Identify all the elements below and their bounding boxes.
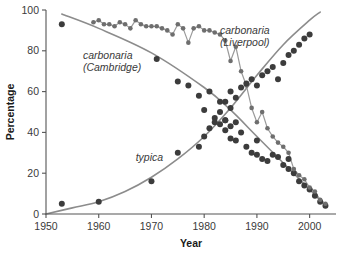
- data-point: [107, 22, 112, 27]
- data-point: [249, 106, 254, 111]
- data-point: [222, 99, 228, 105]
- data-point: [259, 156, 265, 162]
- data-point: [254, 138, 260, 144]
- data-point: [296, 42, 302, 48]
- data-point: [280, 162, 286, 168]
- data-point: [301, 36, 307, 42]
- data-point: [148, 178, 154, 184]
- data-point: [197, 24, 202, 29]
- data-point: [254, 152, 260, 158]
- data-point: [181, 26, 186, 31]
- data-point: [91, 20, 96, 25]
- peppered-moth-scatter-chart: 020406080100195019601970198019902000Year…: [0, 0, 343, 254]
- data-point: [301, 182, 307, 188]
- data-point: [254, 82, 260, 88]
- x-axis-title: Year: [180, 237, 202, 249]
- data-point: [112, 24, 117, 29]
- y-tick-label: 0: [33, 208, 39, 220]
- data-point: [202, 28, 207, 33]
- data-point: [286, 166, 292, 172]
- data-point: [270, 64, 276, 70]
- data-point: [228, 136, 234, 142]
- data-point: [270, 134, 275, 139]
- data-point: [102, 22, 107, 27]
- data-point: [238, 129, 244, 135]
- data-point: [260, 110, 265, 115]
- data-point: [154, 24, 159, 29]
- data-point: [217, 109, 223, 115]
- data-point: [228, 89, 234, 95]
- data-point: [286, 52, 292, 58]
- data-point: [228, 59, 233, 64]
- data-point: [238, 85, 244, 91]
- data-point: [323, 202, 328, 207]
- y-tick-label: 100: [21, 4, 39, 16]
- data-point: [201, 107, 207, 113]
- data-point: [170, 32, 175, 37]
- data-point: [233, 119, 239, 125]
- x-tick-label: 1950: [34, 220, 58, 232]
- data-point: [154, 56, 160, 62]
- data-point: [255, 120, 260, 125]
- data-point: [212, 30, 217, 35]
- x-tick-label: 1970: [140, 220, 164, 232]
- y-tick-label: 60: [27, 85, 39, 97]
- data-point: [96, 18, 101, 23]
- data-point: [222, 127, 228, 133]
- fit-lines-group: [46, 12, 325, 214]
- data-point: [133, 18, 138, 23]
- data-point: [228, 105, 234, 111]
- data-point: [96, 199, 102, 205]
- data-point: [191, 26, 196, 31]
- data-point: [59, 21, 65, 27]
- data-point: [259, 72, 265, 78]
- data-point: [275, 154, 281, 160]
- data-point: [264, 68, 270, 74]
- data-point: [313, 189, 318, 194]
- data-point: [165, 28, 170, 33]
- y-tick-label: 20: [27, 167, 39, 179]
- data-point: [291, 48, 297, 54]
- data-point: [281, 144, 286, 149]
- data-point: [149, 24, 154, 29]
- data-point: [307, 185, 312, 190]
- data-point: [128, 26, 133, 31]
- data-point: [239, 69, 244, 74]
- data-point: [296, 178, 302, 184]
- data-point: [307, 31, 313, 37]
- data-point: [297, 173, 302, 178]
- series-annotation-typica: typica: [136, 151, 164, 163]
- data-point: [144, 24, 149, 29]
- data-point: [233, 95, 239, 101]
- y-tick-label: 80: [27, 44, 39, 56]
- data-point: [206, 89, 212, 95]
- data-point: [196, 93, 202, 99]
- y-axis-title: Percentage: [4, 84, 16, 141]
- data-point: [212, 119, 218, 125]
- data-point: [196, 144, 202, 150]
- chart-container: 020406080100195019601970198019902000Year…: [0, 0, 343, 254]
- data-point: [302, 177, 307, 182]
- data-point: [160, 26, 165, 31]
- data-point: [276, 140, 281, 145]
- data-point: [270, 152, 276, 158]
- data-point: [217, 121, 223, 127]
- data-point: [222, 117, 228, 123]
- data-point: [185, 82, 191, 88]
- x-tick-label: 1980: [193, 220, 217, 232]
- data-point: [186, 40, 191, 45]
- data-point: [249, 76, 255, 82]
- data-point: [318, 197, 323, 202]
- data-point: [217, 99, 223, 105]
- data-point: [243, 144, 249, 150]
- x-tick-label: 1960: [87, 220, 111, 232]
- data-point: [264, 158, 270, 164]
- data-point: [175, 150, 181, 156]
- data-points-group: [59, 18, 329, 209]
- series-annotation-carbonaria-liverpool-sub: (Liverpool): [220, 36, 270, 48]
- data-point: [176, 22, 181, 27]
- data-point: [265, 126, 270, 131]
- data-point: [286, 151, 291, 156]
- data-point: [118, 20, 123, 25]
- data-point: [175, 78, 181, 84]
